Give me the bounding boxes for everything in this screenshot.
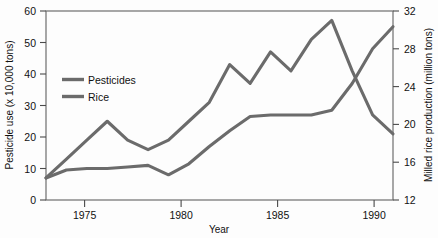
xtick-label-1985: 1985 — [266, 209, 290, 221]
y-axis-right-title: Milled rice production (million tons) — [423, 28, 434, 182]
x-axis-title: Year — [209, 224, 230, 235]
xtick-label-1980: 1980 — [169, 209, 193, 221]
ytick-label-50: 50 — [24, 37, 36, 49]
y2tick-label-20: 20 — [404, 118, 416, 130]
xtick-label-1990: 1990 — [362, 209, 386, 221]
y2tick-label-24: 24 — [404, 81, 416, 93]
ytick-label-20: 20 — [24, 131, 36, 143]
legend-label-pesticides: Pesticides — [88, 74, 136, 86]
y2tick-label-12: 12 — [404, 194, 416, 206]
ytick-label-40: 40 — [24, 68, 36, 80]
y-axis-left-title: Pesticide use (x 10,000 tons) — [4, 41, 15, 170]
ytick-label-30: 30 — [24, 100, 36, 112]
legend-label-rice: Rice — [88, 91, 109, 103]
y2tick-label-32: 32 — [404, 5, 416, 17]
ytick-label-60: 60 — [24, 5, 36, 17]
y2tick-label-16: 16 — [404, 156, 416, 168]
ytick-label-0: 0 — [30, 194, 36, 206]
y2tick-label-28: 28 — [404, 43, 416, 55]
dual-axis-line-chart: 0 10 20 30 40 50 60 Pesticide use (x 10,… — [0, 0, 438, 238]
ytick-label-10: 10 — [24, 163, 36, 175]
xtick-label-1975: 1975 — [73, 209, 97, 221]
